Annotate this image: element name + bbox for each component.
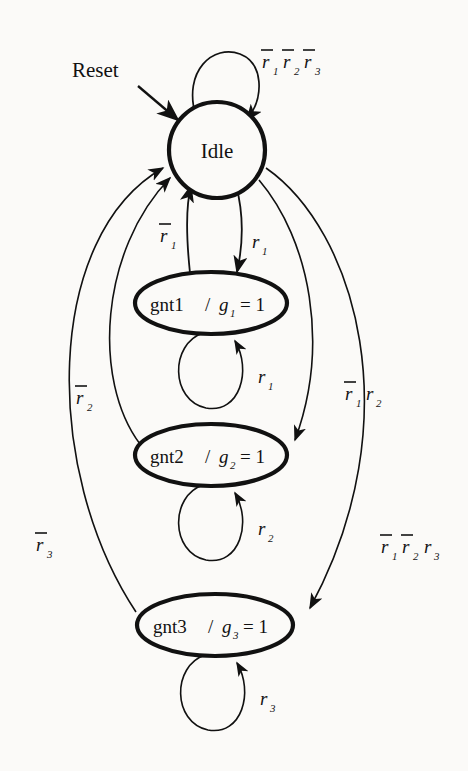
svg-text:= 1: = 1 [240, 294, 265, 315]
svg-text:/: / [205, 446, 211, 467]
edge-label-idle-to-gnt1: r 1 [252, 231, 267, 257]
edge-label-gnt3-to-idle: r 3 [35, 533, 53, 560]
svg-text:2: 2 [294, 65, 300, 77]
svg-text:1: 1 [262, 245, 267, 257]
svg-text:/: / [205, 294, 211, 315]
edge-gnt3-self-loop [181, 655, 245, 731]
svg-text:r: r [381, 536, 389, 557]
svg-text:g: g [219, 446, 229, 467]
svg-text:r: r [262, 51, 270, 72]
svg-text:2: 2 [413, 550, 419, 562]
svg-text:r: r [160, 225, 168, 246]
svg-text:1: 1 [268, 380, 273, 392]
svg-text:r: r [345, 383, 353, 404]
edge-label-idle-to-gnt3: r 1 r 2 r 3 [380, 535, 440, 562]
reset-label: Reset [72, 58, 119, 82]
svg-text:r: r [402, 536, 410, 557]
svg-text:3: 3 [314, 65, 321, 77]
svg-text:r: r [76, 387, 84, 408]
svg-text:3: 3 [433, 550, 440, 562]
edge-label-idle-self: r 1 r 2 r 3 [261, 50, 321, 77]
edge-label-gnt3-self: r 3 [260, 688, 276, 714]
svg-text:1: 1 [356, 397, 361, 409]
svg-text:r: r [258, 518, 266, 539]
edge-gnt1-self-loop [179, 333, 243, 409]
fsm-diagram-canvas: Idle gnt1 / g 1 = 1 gnt2 / g 2 = 1 gnt3 … [0, 0, 468, 771]
state-label-idle: Idle [201, 139, 234, 163]
svg-text:r: r [36, 534, 44, 555]
edge-reset-arrow [138, 86, 178, 120]
svg-text:r: r [366, 383, 374, 404]
svg-text:g: g [219, 294, 229, 315]
svg-text:3: 3 [269, 702, 276, 714]
svg-text:g: g [222, 616, 232, 637]
svg-text:2: 2 [87, 401, 93, 413]
svg-text:2: 2 [230, 459, 236, 471]
svg-text:r: r [260, 688, 268, 709]
svg-text:gnt2: gnt2 [150, 446, 184, 467]
svg-text:1: 1 [171, 239, 176, 251]
edge-label-idle-to-gnt2: r 1 r 2 [344, 382, 382, 409]
svg-text:1: 1 [392, 550, 397, 562]
edge-gnt1-to-idle [187, 186, 191, 273]
svg-text:3: 3 [232, 629, 239, 641]
edge-idle-to-gnt1 [236, 185, 242, 272]
svg-text:2: 2 [376, 397, 382, 409]
svg-text:1: 1 [230, 307, 235, 319]
edge-label-gnt1-self: r 1 [258, 366, 273, 392]
svg-text:3: 3 [46, 548, 53, 560]
svg-text:gnt3: gnt3 [153, 616, 187, 637]
edge-label-gnt2-self: r 2 [258, 518, 274, 544]
svg-text:r: r [252, 231, 260, 252]
svg-text:2: 2 [268, 532, 274, 544]
svg-text:r: r [258, 366, 266, 387]
svg-text:= 1: = 1 [240, 446, 265, 467]
svg-text:r: r [424, 536, 432, 557]
svg-text:r: r [283, 51, 291, 72]
svg-text:= 1: = 1 [243, 616, 268, 637]
fsm-svg: Idle gnt1 / g 1 = 1 gnt2 / g 2 = 1 gnt3 … [0, 0, 468, 771]
svg-text:/: / [208, 616, 214, 637]
svg-text:1: 1 [273, 65, 278, 77]
svg-text:gnt1: gnt1 [150, 294, 184, 315]
edge-label-gnt2-to-idle: r 2 [75, 386, 93, 413]
svg-text:r: r [304, 51, 312, 72]
edge-label-gnt1-to-idle: r 1 [159, 224, 176, 251]
edge-gnt2-self-loop [179, 485, 243, 561]
